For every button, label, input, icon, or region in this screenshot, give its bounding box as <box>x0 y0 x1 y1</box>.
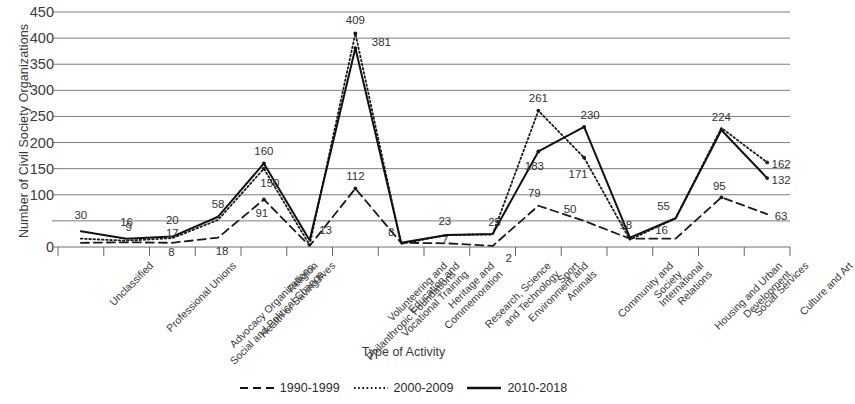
legend-item: 2010-2018 <box>467 381 567 395</box>
data-label: 13 <box>319 224 332 236</box>
data-label: 261 <box>529 92 548 104</box>
legend-label: 1990-1999 <box>280 381 340 395</box>
data-label: 381 <box>372 36 391 48</box>
data-point <box>353 32 357 36</box>
data-point <box>765 176 769 180</box>
data-label: 132 <box>772 174 791 186</box>
data-point <box>353 187 357 191</box>
data-label: 30 <box>74 209 87 221</box>
series-line-1990-1999 <box>81 189 767 246</box>
data-label: 20 <box>166 214 179 226</box>
data-label: 2 <box>505 252 511 264</box>
series-line-2010-2018 <box>81 48 767 243</box>
legend-label: 2010-2018 <box>507 381 567 395</box>
data-point <box>582 125 586 129</box>
legend-item: 1990-1999 <box>240 381 340 395</box>
data-label: 8 <box>168 246 174 258</box>
data-point <box>719 128 723 132</box>
data-label: 230 <box>581 109 600 121</box>
data-label: 224 <box>712 111 731 123</box>
data-label: 112 <box>346 170 364 182</box>
data-label: 25 <box>488 216 501 228</box>
data-label: 409 <box>346 14 365 26</box>
data-point <box>262 198 266 202</box>
data-label: 55 <box>657 200 670 212</box>
data-label: 63 <box>775 210 788 222</box>
data-point <box>719 195 723 199</box>
data-label: 79 <box>528 187 541 199</box>
data-point <box>536 109 540 113</box>
legend-key-dotted-icon <box>354 383 388 393</box>
data-label: 171 <box>569 168 588 180</box>
legend-label: 2000-2009 <box>394 381 454 395</box>
data-label: 18 <box>619 219 632 231</box>
legend-item: 2000-2009 <box>354 381 454 395</box>
data-label: 9 <box>125 221 131 233</box>
data-point <box>262 162 266 166</box>
data-label: 91 <box>255 207 268 219</box>
data-label: 17 <box>166 227 179 239</box>
x-axis-title: Type of Activity <box>0 345 807 359</box>
legend-key-solid-icon <box>467 383 501 393</box>
data-label: 23 <box>438 215 451 227</box>
data-point <box>262 167 266 171</box>
data-label: 18 <box>216 245 229 257</box>
data-label: 150 <box>260 177 279 189</box>
data-label: 7 <box>442 234 448 246</box>
data-label: 8 <box>388 226 394 238</box>
data-point <box>765 161 769 165</box>
data-point <box>353 46 357 50</box>
data-label: 50 <box>564 203 577 215</box>
data-point <box>582 156 586 160</box>
data-label: 183 <box>525 160 544 172</box>
legend-key-dashed-icon <box>240 383 274 393</box>
data-label: 160 <box>254 145 273 157</box>
data-point <box>536 150 540 154</box>
series-line-2000-2009 <box>81 33 767 245</box>
data-label: 16 <box>655 224 668 236</box>
data-label: 58 <box>212 198 225 210</box>
data-label: 95 <box>713 180 726 192</box>
chart-legend: 1990-19992000-20092010-2018 <box>0 381 807 395</box>
data-label: 162 <box>772 158 791 170</box>
